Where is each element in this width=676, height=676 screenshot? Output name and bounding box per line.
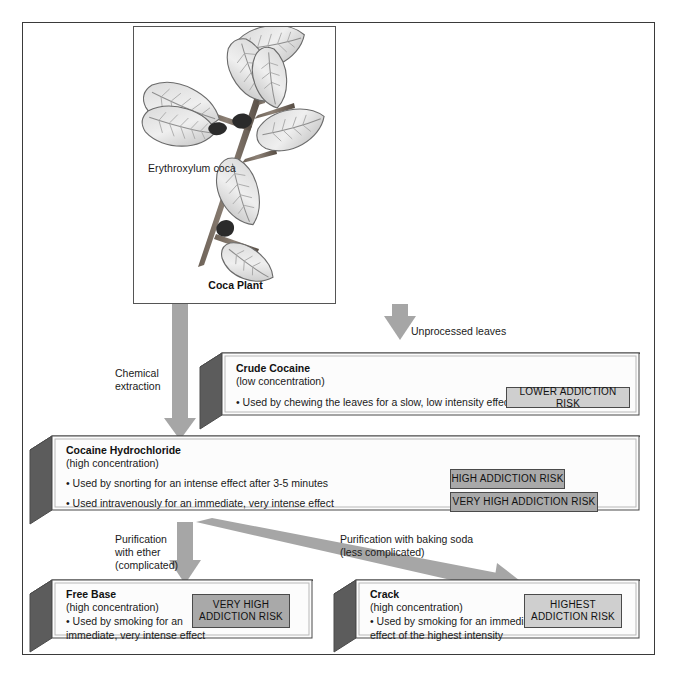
badge-label: HIGHEST ADDICTION RISK [531,599,615,623]
label-chemical-extraction: Chemical extraction [115,367,161,393]
arrow-chemical-extraction [164,304,196,440]
label-purification-soda: Purification with baking soda (less comp… [340,533,473,559]
box-bullet: effect of the highest intensity [370,628,538,642]
box-subtitle: (high concentration) [370,601,538,614]
label-unprocessed-leaves: Unprocessed leaves [411,325,506,338]
status-badge-high-addiction-risk: HIGH ADDICTION RISK [450,469,565,489]
box-free-base: Free Base (high concentration) • Used by… [30,580,313,652]
box-cocaine-hydrochloride: Cocaine Hydrochloride (high concentratio… [30,436,640,524]
box-bullet: • Used intravenously for an immediate, v… [66,496,334,510]
box-subtitle: (high concentration) [66,457,181,470]
status-badge-very-high-addiction-risk: VERY HIGH ADDICTION RISK [450,492,598,512]
box-title: Free Base [66,588,205,601]
box-bullet: • Used by chewing the leaves for a slow,… [236,395,512,409]
box-bullet: • Used by smoking for an [66,614,205,628]
box-bullet: • Used by smoking for an immediate [370,614,538,628]
status-badge-highest-addiction-risk: HIGHEST ADDICTION RISK [524,594,622,628]
badge-label: VERY HIGH ADDICTION RISK [453,496,596,508]
diagram-canvas: Erythroxylum coca Coca Plant [0,0,676,676]
box-subtitle: (low concentration) [236,375,325,388]
arrow-layer [0,0,676,676]
box-title: Cocaine Hydrochloride [66,444,181,457]
box-bullet: • Used by snorting for an intense effect… [66,476,328,490]
badge-label: VERY HIGH ADDICTION RISK [199,599,283,623]
box-bullet: immediate, very intense effect [66,628,205,642]
label-purification-ether: Purification with ether (complicated) [115,533,178,572]
box-crack: Crack (high concentration) • Used by smo… [334,580,640,652]
box-title: Crack [370,588,538,601]
box-title: Crude Cocaine [236,362,325,375]
box-subtitle: (high concentration) [66,601,205,614]
badge-label: HIGH ADDICTION RISK [451,473,563,485]
box-crude-cocaine: Crude Cocaine (low concentration) • Used… [200,353,640,429]
badge-label: LOWER ADDICTION RISK [507,386,629,410]
status-badge-very-high-addiction-risk: VERY HIGH ADDICTION RISK [192,594,290,628]
status-badge-lower-addiction-risk: LOWER ADDICTION RISK [506,387,630,408]
